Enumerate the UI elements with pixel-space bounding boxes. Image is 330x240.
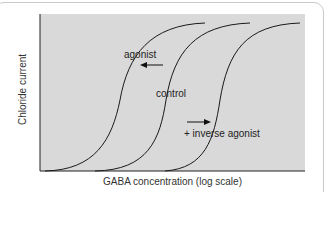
agonist-label: agonist	[124, 49, 156, 60]
y-axis-label: Chloride current	[17, 40, 28, 140]
inverse-agonist-label: + inverse agonist	[184, 128, 260, 139]
x-axis-label: GABA concentration (log scale)	[40, 176, 305, 187]
control-label: control	[156, 88, 186, 99]
